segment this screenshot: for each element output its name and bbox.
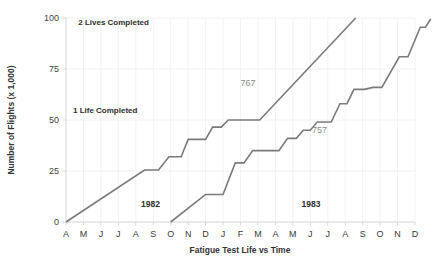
annotations-group: 2 Lives Completed1 Life Completed1982198… [73, 18, 327, 209]
x-tick-label: M [80, 229, 88, 239]
year-1982-label: 1982 [141, 199, 160, 209]
x-tick-label: D [202, 229, 209, 239]
x-axis-title: Fatigue Test Life vs Time [190, 245, 291, 255]
y-axis-title: Number of Flights (x 1,000) [6, 65, 16, 174]
x-tick-label: J [221, 229, 226, 239]
y-tick-label: 25 [49, 166, 59, 176]
x-tick-label: S [150, 229, 156, 239]
x-tick-label: F [238, 229, 244, 239]
series-line-757 [171, 19, 431, 222]
x-tick-label: A [133, 229, 139, 239]
one-life-completed-label: 1 Life Completed [73, 106, 138, 115]
x-tick-label: A [342, 229, 348, 239]
x-tick-label: N [394, 229, 401, 239]
y-tick-labels-group: 0255075100 [44, 13, 59, 227]
x-tick-label: M [254, 229, 262, 239]
series-label-757: 757 [312, 125, 327, 135]
y-tick-label: 75 [49, 64, 59, 74]
x-tick-label: J [99, 229, 104, 239]
x-tick-label: D [412, 229, 419, 239]
x-tick-label: O [167, 229, 174, 239]
two-lives-completed-label: 2 Lives Completed [78, 18, 149, 27]
series-label-767: 767 [241, 78, 256, 88]
x-tick-label: O [377, 229, 384, 239]
x-tick-label: A [63, 229, 69, 239]
year-1983-label: 1983 [302, 199, 321, 209]
x-tick-label: S [360, 229, 366, 239]
y-tick-label: 0 [54, 217, 59, 227]
x-tick-labels-group: AMJJASONDJFMAMJJASOND [63, 229, 419, 239]
chart-canvas: 0255075100 AMJJASONDJFMAMJJASOND 2 Lives… [0, 0, 441, 264]
y-tick-label: 100 [44, 13, 59, 23]
x-tick-label: M [289, 229, 297, 239]
x-tick-label: J [308, 229, 313, 239]
x-tick-label: J [116, 229, 121, 239]
x-tick-label: A [272, 229, 278, 239]
y-tick-label: 50 [49, 115, 59, 125]
x-tick-label: J [326, 229, 331, 239]
fatigue-test-chart: 0255075100 AMJJASONDJFMAMJJASOND 2 Lives… [0, 0, 441, 264]
x-tick-label: N [185, 229, 192, 239]
axis-lines-group [63, 18, 416, 226]
